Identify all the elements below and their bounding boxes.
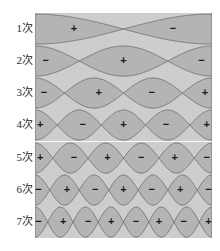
harmonic-order-label: 5次 — [0, 152, 33, 163]
polarity-plus-sign: + — [177, 183, 183, 195]
harmonic-wave-plot: +−+−+ — [35, 109, 212, 141]
harmonic-wave-plot: +− — [35, 13, 212, 45]
harmonic-row: 2次−+− — [0, 45, 220, 77]
harmonic-row: 5次+−+−+− — [0, 142, 220, 174]
polarity-plus-sign: + — [156, 215, 162, 227]
polarity-minus-sign: − — [35, 183, 41, 195]
harmonic-order-label: 2次 — [0, 55, 33, 66]
harmonic-order-label: 3次 — [0, 87, 33, 98]
harmonic-row: 3次−+−+ — [0, 77, 220, 109]
polarity-plus-sign: + — [120, 183, 126, 195]
harmonic-wave-plot: −+− — [35, 45, 212, 77]
polarity-minus-sign: − — [42, 55, 48, 67]
harmonic-order-label: 4次 — [0, 119, 33, 130]
harmonic-row: 1次+− — [0, 13, 220, 45]
polarity-minus-sign: − — [163, 119, 169, 131]
harmonic-wave-plot: +−+−+− — [35, 142, 212, 174]
polarity-plus-sign: + — [120, 55, 126, 67]
harmonic-mode-diagram: 1次+−2次−+−3次−+−+4次+−+−+5次+−+−+−6次−+−+−+−7… — [0, 0, 220, 251]
polarity-minus-sign: − — [149, 87, 155, 99]
polarity-plus-sign: + — [37, 119, 43, 131]
polarity-plus-sign: + — [172, 151, 178, 163]
polarity-minus-sign: − — [205, 183, 211, 195]
polarity-minus-sign: − — [149, 183, 155, 195]
polarity-plus-sign: + — [202, 87, 208, 99]
polarity-minus-sign: − — [41, 87, 47, 99]
polarity-plus-sign: + — [60, 215, 66, 227]
harmonic-row: 4次+−+−+ — [0, 109, 220, 141]
wave-envelope-svg: −+−+−+− — [35, 174, 212, 206]
polarity-plus-sign: + — [104, 151, 110, 163]
polarity-plus-sign: + — [120, 119, 126, 131]
polarity-minus-sign: − — [133, 215, 139, 227]
harmonic-order-label: 1次 — [0, 23, 33, 34]
polarity-minus-sign: − — [92, 183, 98, 195]
harmonic-order-label: 6次 — [0, 184, 33, 195]
polarity-minus-sign: − — [71, 151, 77, 163]
wave-envelope-svg: −+− — [35, 45, 212, 77]
harmonic-wave-plot: −+−+−+− — [35, 174, 212, 206]
polarity-plus-sign: + — [64, 183, 70, 195]
harmonic-wave-plot: −+−+ — [35, 77, 212, 109]
polarity-minus-sign: − — [180, 215, 186, 227]
polarity-minus-sign: − — [85, 215, 91, 227]
wave-envelope-svg: +−+−+ — [35, 109, 212, 141]
polarity-minus-sign: − — [203, 151, 209, 163]
polarity-plus-sign: + — [71, 22, 77, 34]
polarity-plus-sign: + — [96, 87, 102, 99]
harmonic-wave-plot: −+−+−+−+ — [35, 206, 212, 238]
harmonic-row: 6次−+−+−+− — [0, 174, 220, 206]
harmonic-order-label: 7次 — [0, 216, 33, 227]
polarity-plus-sign: + — [108, 215, 114, 227]
polarity-minus-sign: − — [35, 215, 41, 227]
polarity-plus-sign: + — [205, 215, 211, 227]
polarity-plus-sign: + — [37, 151, 43, 163]
wave-envelope-svg: +− — [35, 13, 212, 45]
wave-envelope-svg: −+−+ — [35, 77, 212, 109]
harmonic-row: 7次−+−+−+−+ — [0, 206, 220, 238]
polarity-minus-sign: − — [170, 22, 176, 34]
polarity-minus-sign: − — [138, 151, 144, 163]
polarity-plus-sign: + — [203, 119, 209, 131]
polarity-minus-sign: − — [80, 119, 86, 131]
polarity-minus-sign: − — [198, 55, 204, 67]
wave-envelope-svg: −+−+−+−+ — [35, 206, 212, 238]
wave-envelope-svg: +−+−+− — [35, 142, 212, 174]
